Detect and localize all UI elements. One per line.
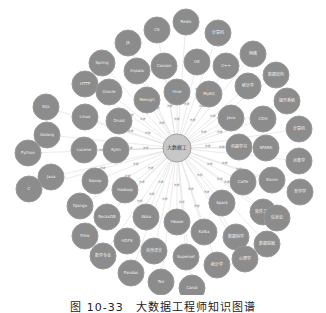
- graph-node-label: CDH: [259, 116, 268, 121]
- graph-node[interactable]: 哲学学: [287, 179, 313, 205]
- graph-node[interactable]: CS: [144, 17, 170, 43]
- edge-label: 技能: [179, 200, 185, 204]
- graph-node[interactable]: Hadoop: [112, 177, 138, 203]
- graph-node[interactable]: 机器学习: [226, 134, 252, 160]
- graph-node-label: Hadoop: [117, 187, 133, 192]
- graph-node-label: Cassan: [157, 63, 172, 68]
- graph-node[interactable]: Hbase: [164, 209, 190, 235]
- graph-node[interactable]: SPARK: [253, 135, 279, 161]
- edge-label: 技能: [137, 199, 143, 203]
- graph-node[interactable]: Java: [218, 105, 244, 131]
- graph-node-label: Hbase: [171, 219, 184, 224]
- edge-label: 技能: [143, 146, 149, 150]
- graph-node[interactable]: C: [16, 176, 42, 202]
- graph-node[interactable]: Flink: [72, 223, 98, 249]
- graph-node-label: Linux: [80, 114, 91, 119]
- graph-node-label: Pandas: [124, 270, 138, 275]
- edge-label: 技能: [149, 192, 155, 196]
- graph-node[interactable]: Tez: [148, 269, 174, 295]
- graph-node[interactable]: 心理学: [232, 246, 258, 272]
- graph-node[interactable]: 计算机: [205, 20, 231, 46]
- graph-node[interactable]: Cassan: [151, 53, 177, 79]
- graph-node[interactable]: 统计学: [235, 73, 261, 99]
- graph-node-label: 运筹学: [293, 157, 305, 163]
- graph-node[interactable]: HTTP: [72, 71, 98, 97]
- knowledge-graph: 技能技能技能技能技能技能技能技能技能技能技能技能技能技能技能技能技能技能技能技能…: [0, 0, 326, 295]
- graph-node[interactable]: Redis: [173, 9, 199, 35]
- graph-node[interactable]: JS: [115, 30, 141, 56]
- graph-node[interactable]: Hive: [164, 79, 190, 105]
- graph-node-label: CS: [154, 27, 160, 32]
- graph-node-label: 信息论: [271, 214, 283, 220]
- graph-node-label: Kafka: [198, 229, 210, 234]
- graph-node[interactable]: Linux: [72, 104, 98, 130]
- graph-node[interactable]: Superset: [173, 244, 199, 270]
- graph-node[interactable]: Oracle: [96, 79, 122, 105]
- graph-node[interactable]: Lucene: [71, 137, 97, 163]
- graph-node[interactable]: MySQ: [196, 81, 222, 107]
- graph-node-label: 计算机: [212, 29, 224, 35]
- graph-node-label: HDFS: [122, 238, 133, 243]
- graph-node-label: Caffe: [238, 179, 249, 184]
- graph-node[interactable]: 数学专业: [90, 243, 116, 269]
- graph-node[interactable]: OK: [184, 49, 210, 75]
- graph-node[interactable]: Django: [67, 193, 93, 219]
- graph-node[interactable]: Druid: [106, 108, 132, 134]
- graph-node[interactable]: Kafka: [191, 219, 217, 245]
- graph-node-label: 数据科学: [228, 233, 244, 239]
- graph-node-label: C: [28, 186, 31, 191]
- graph-node[interactable]: 数据结构: [263, 62, 289, 88]
- edge-label: 技能: [174, 183, 180, 187]
- edge-label: 技能: [159, 121, 165, 125]
- graph-node[interactable]: Pandas: [118, 260, 144, 286]
- graph-node[interactable]: Canal: [179, 275, 205, 295]
- graph-node[interactable]: 数据挖掘: [254, 231, 280, 257]
- graph-node-label: 数据结构: [268, 71, 284, 77]
- center-node-label: 大数据工: [167, 144, 187, 151]
- graph-node[interactable]: Impala: [124, 58, 150, 84]
- graph-node-label: Django: [73, 203, 88, 208]
- graph-node[interactable]: Kylin: [103, 137, 129, 163]
- edge-label: 技能: [201, 130, 207, 134]
- graph-node[interactable]: 信息论: [264, 205, 290, 231]
- graph-node-label: Druid: [114, 118, 125, 123]
- edge-label: 技能: [158, 180, 164, 184]
- graph-node[interactable]: HDFS: [114, 228, 140, 254]
- graph-node[interactable]: Spring: [89, 50, 115, 76]
- graph-node-label: Memgrl: [139, 97, 154, 102]
- graph-node-label: Java: [226, 115, 236, 120]
- graph-node[interactable]: Caffe: [230, 169, 256, 195]
- graph-node[interactable]: Memgrl: [134, 87, 160, 113]
- graph-node[interactable]: 计算机: [286, 116, 312, 142]
- graph-node-label: JS: [125, 40, 130, 45]
- graph-node-label: C++: [221, 63, 231, 68]
- edge-label: 技能: [194, 204, 200, 208]
- graph-node-label: 网络: [249, 50, 257, 56]
- graph-node-label: 机器学习: [231, 143, 247, 149]
- graph-node-label: 哲学学: [294, 188, 306, 194]
- graph-node[interactable]: C++: [213, 53, 239, 79]
- graph-node[interactable]: Spark: [209, 190, 235, 216]
- graph-node[interactable]: 自然语言: [141, 238, 167, 264]
- graph-node[interactable]: RocksDB: [94, 204, 120, 230]
- center-node[interactable]: 大数据工: [163, 134, 191, 162]
- graph-node[interactable]: Sqoop: [82, 168, 108, 194]
- graph-node[interactable]: Akka: [133, 204, 159, 230]
- graph-node-label: Storm: [266, 177, 278, 182]
- graph-node-label: RocksDB: [98, 214, 116, 219]
- graph-node-label: 统计学: [211, 261, 223, 267]
- graph-node[interactable]: 统计学: [204, 252, 230, 278]
- graph-node-label: HTTP: [80, 81, 91, 86]
- graph-node[interactable]: 网络: [240, 41, 266, 67]
- graph-node-label: Canal: [186, 285, 197, 290]
- graph-node-label: Redis: [181, 19, 192, 24]
- graph-node[interactable]: 操作系统: [274, 88, 300, 114]
- graph-node-label: Kylin: [111, 147, 121, 152]
- graph-node[interactable]: SQL: [33, 94, 59, 120]
- graph-node[interactable]: 运筹学: [286, 148, 312, 174]
- graph-node-label: Golang: [40, 132, 55, 137]
- graph-node[interactable]: CDH: [250, 106, 276, 132]
- graph-node[interactable]: Python: [15, 140, 41, 166]
- graph-node-label: 操作系统: [279, 97, 295, 103]
- graph-node[interactable]: Storm: [259, 167, 285, 193]
